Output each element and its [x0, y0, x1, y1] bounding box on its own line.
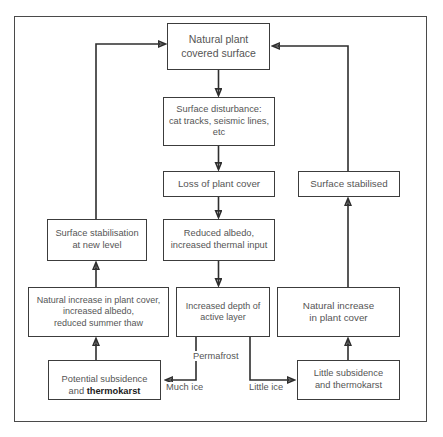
node-label-emphasis: thermokarst — [87, 386, 141, 396]
node-label: Loss of plant cover — [175, 178, 263, 190]
node-natural-plant-covered-surface: Natural plant covered surface — [167, 23, 270, 70]
edge-label-permafrost: Permafrost — [191, 351, 240, 361]
node-loss-of-plant-cover: Loss of plant cover — [163, 171, 275, 197]
node-label: Natural plant covered surface — [178, 33, 259, 59]
node-label: Little subsidence and thermokarst — [311, 368, 386, 391]
node-reduced-albedo: Reduced albedo, increased thermal input — [163, 219, 275, 261]
node-surface-disturbance: Surface disturbance: cat tracks, seismic… — [163, 97, 275, 146]
edge-label-little-ice: Little ice — [247, 382, 285, 392]
node-surface-stabilisation-at-new-level: Surface stabilisation at new level — [47, 219, 147, 261]
node-natural-increase-in-plant-cover: Natural increase in plant cover — [277, 287, 400, 337]
edge-right-feedback — [273, 46, 348, 171]
node-little-subsidence-and-thermokarst: Little subsidence and thermokarst — [297, 360, 400, 400]
node-label: Potential subsidence and thermokarst — [59, 363, 151, 398]
flowchart-diagram: Natural plant covered surface Surface di… — [0, 0, 443, 437]
node-increased-depth-of-active-layer: Increased depth of active layer — [176, 287, 270, 337]
edge-label-much-ice: Much ice — [164, 382, 205, 392]
node-label: Natural increase in plant cover, increas… — [34, 295, 164, 329]
node-label: Surface stabilised — [307, 178, 390, 190]
edge-branch-little-ice — [250, 337, 294, 380]
node-label: Surface stabilisation at new level — [52, 228, 141, 251]
edge-left-feedback — [96, 44, 165, 219]
node-surface-stabilised: Surface stabilised — [298, 171, 400, 197]
node-label: Surface disturbance: cat tracks, seismic… — [166, 104, 272, 139]
node-label: Reduced albedo, increased thermal input — [168, 228, 271, 251]
node-label: Increased depth of active layer — [183, 301, 264, 324]
node-potential-subsidence-and-thermokarst: Potential subsidence and thermokarst — [48, 360, 161, 400]
node-label: Natural increase in plant cover — [300, 300, 377, 324]
node-natural-increase-plant-cover-albedo-thaw: Natural increase in plant cover, increas… — [28, 287, 169, 337]
